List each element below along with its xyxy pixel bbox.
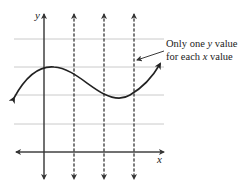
vertical-line-test-diagram: y x Only one y value for each x value xyxy=(0,0,247,186)
horizontal-gridlines xyxy=(14,39,164,124)
y-axis-label: y xyxy=(34,9,40,21)
annotation-text: for each xyxy=(166,51,203,62)
function-curve xyxy=(14,64,160,98)
x-axis-label: x xyxy=(156,153,162,165)
annotation-text: Only one xyxy=(166,38,207,49)
annotation-text: value xyxy=(207,51,233,62)
annotation-line-2: for each x value xyxy=(166,51,233,62)
annotation-text: value xyxy=(212,38,238,49)
annotation-arrow xyxy=(137,51,164,60)
annotation-line-1: Only one y value xyxy=(166,38,238,49)
